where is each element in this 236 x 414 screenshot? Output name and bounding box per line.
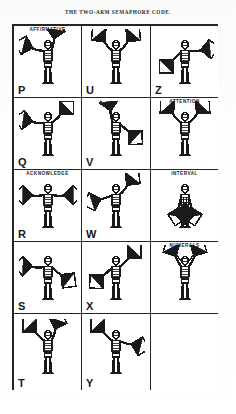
cell-header-label: INTERVAL [151, 171, 218, 176]
cell-header-label: AFFIRMATIVE [14, 27, 81, 32]
cell-letter-label: Y [86, 378, 93, 389]
cell-letter-label: T [18, 378, 25, 389]
semaphore-plate: THE TWO-ARM SEMAPHORE CODE. AFFIRMATIVE [0, 0, 236, 414]
semaphore-cell: Y [82, 314, 151, 390]
semaphore-figure [151, 170, 218, 241]
semaphore-cell: INTERVAL [151, 170, 218, 242]
semaphore-cell: ACKNOWLEDGE [14, 170, 82, 242]
cell-letter-label: R [18, 229, 26, 240]
semaphore-cell: AFFIRMATIVE [14, 26, 82, 98]
semaphore-grid: AFFIRMATIVE [12, 24, 218, 390]
cell-letter-label: V [86, 157, 93, 168]
cell-header-label: ACKNOWLEDGE [14, 171, 81, 176]
semaphore-figure [151, 242, 218, 313]
cell-letter-label: S [18, 301, 25, 312]
semaphore-cell: T [14, 314, 82, 390]
semaphore-cell: Q [14, 98, 82, 170]
page-title: THE TWO-ARM SEMAPHORE CODE. [0, 9, 236, 15]
cell-letter-label: P [18, 85, 25, 96]
semaphore-cell: Z [151, 26, 218, 98]
cell-letter-label: Z [155, 85, 162, 96]
semaphore-cell: U [82, 26, 151, 98]
cell-letter-label: W [86, 229, 96, 240]
cell-letter-label: X [86, 301, 93, 312]
cell-header-label: NUMERALS [151, 243, 218, 248]
semaphore-cell: V [82, 98, 151, 170]
semaphore-cell: W [82, 170, 151, 242]
cell-letter-label: U [86, 85, 94, 96]
cell-header-label: ATTENTION [151, 99, 218, 104]
semaphore-figure [151, 98, 218, 169]
semaphore-cell: X [82, 242, 151, 314]
semaphore-cell: NUMERALS [151, 242, 218, 314]
cell-letter-label: Q [18, 157, 27, 168]
semaphore-cell: S [14, 242, 82, 314]
semaphore-cell: ATTENTION [151, 98, 218, 170]
semaphore-cell-blank [151, 314, 218, 390]
